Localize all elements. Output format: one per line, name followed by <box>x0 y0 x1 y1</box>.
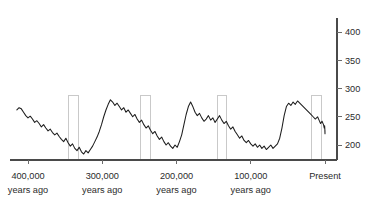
axes-group <box>10 18 337 160</box>
highlight-region-interglacial-peak-3 <box>217 95 227 160</box>
y-tick-label-2: 300 <box>345 84 360 94</box>
x-tick-sublabel-1: years ago <box>82 185 122 195</box>
x-tick-sublabel-0: years ago <box>8 185 48 195</box>
co2-concentration-line <box>17 100 325 154</box>
x-tick-label-1: 300,000 <box>86 171 119 181</box>
plot-area <box>17 100 325 154</box>
x-tick-sublabel-3: years ago <box>231 185 271 195</box>
y-ticks-group <box>337 32 342 145</box>
y-tick-label-0: 200 <box>345 140 360 150</box>
y-tick-labels-group: 200250300350400 <box>345 27 360 150</box>
y-tick-label-4: 400 <box>345 27 360 37</box>
x-tick-label-2: 200,000 <box>160 171 193 181</box>
y-tick-label-3: 350 <box>345 56 360 66</box>
highlight-regions-group <box>69 95 321 160</box>
highlight-region-interglacial-peak-4 <box>312 95 322 160</box>
x-ticks-group <box>28 160 325 164</box>
x-tick-sublabel-2: years ago <box>156 185 196 195</box>
x-tick-label-4: Present <box>309 171 341 181</box>
x-tick-labels-group: 400,000years ago300,000years ago200,000y… <box>8 171 341 195</box>
co2-history-chart: 400,000years ago300,000years ago200,000y… <box>0 0 374 206</box>
y-tick-label-1: 250 <box>345 112 360 122</box>
x-tick-label-3: 100,000 <box>234 171 267 181</box>
x-tick-label-0: 400,000 <box>11 171 44 181</box>
chart-canvas: 400,000years ago300,000years ago200,000y… <box>0 0 374 206</box>
